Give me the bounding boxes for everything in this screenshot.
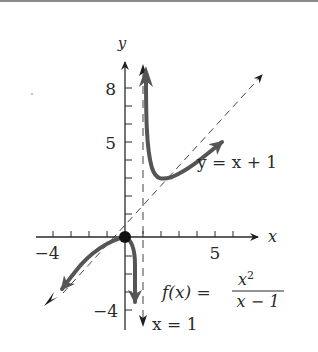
- curve-left-branch: [62, 237, 125, 289]
- y-axis: [125, 62, 132, 330]
- function-numerator: x2: [238, 269, 254, 289]
- x-tick-label-neg4: −4: [34, 243, 59, 263]
- vertical-asymptote-label: x = 1: [152, 314, 197, 334]
- function-label: f(x) = x2 x − 1: [160, 269, 284, 311]
- chart-frame: y x −4 5 8 5 −4 y = x + 1 x = 1 f(x) = x…: [0, 0, 318, 352]
- x-tick-label-5: 5: [210, 243, 221, 263]
- y-axis-ticks: [125, 88, 132, 310]
- y-axis-label: y: [117, 34, 127, 52]
- oblique-asymptote-lower-arrow-icon: [44, 292, 58, 306]
- y-tick-label-neg4: −4: [93, 301, 118, 321]
- function-plot: y x −4 5 8 5 −4 y = x + 1 x = 1 f(x) = x…: [0, 0, 318, 352]
- origin-point: [119, 231, 131, 243]
- x-axis-ticks: [53, 231, 233, 237]
- y-tick-label-8: 8: [105, 79, 116, 99]
- function-lhs: f(x) =: [160, 282, 211, 302]
- x-axis-label: x: [268, 227, 277, 246]
- function-denominator: x − 1: [237, 292, 280, 311]
- speck: [31, 93, 33, 95]
- y-tick-label-5: 5: [105, 133, 116, 153]
- x-axis: [36, 231, 258, 237]
- oblique-asymptote-label: y = x + 1: [196, 152, 277, 172]
